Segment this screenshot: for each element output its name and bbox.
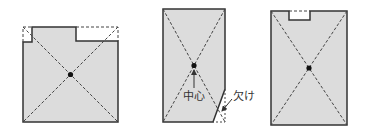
figure-1-center-dot (68, 72, 73, 77)
figure-1 (23, 27, 118, 122)
center-label: 中心 (183, 90, 205, 103)
figure-3-center-dot (306, 65, 311, 70)
diagram-canvas: 中心 欠け (0, 0, 367, 135)
chip-label: 欠け (233, 89, 255, 103)
figure-2: 中心 欠け (163, 9, 255, 122)
chip-label-arrow (222, 99, 232, 111)
figure-2-center-dot (191, 63, 196, 68)
figure-3 (271, 11, 347, 125)
